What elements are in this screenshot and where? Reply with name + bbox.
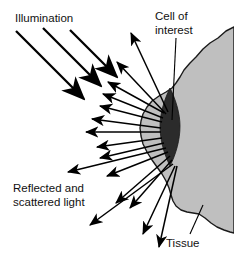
label-interest: interest — [155, 24, 194, 36]
illumination-arrow-2 — [43, 28, 101, 86]
label-reflected-and: Reflected and — [13, 182, 84, 194]
label-scattered-light: scattered light — [13, 196, 85, 208]
label-tissue: Tissue — [166, 237, 199, 249]
scatter-arrow-up-2 — [117, 62, 166, 114]
illumination-beams — [16, 28, 117, 99]
illumination-arrow-3 — [70, 30, 117, 77]
scatter-arrow-dl-6 — [130, 160, 172, 208]
label-illumination: Illumination — [15, 12, 73, 24]
tissue-region — [140, 27, 234, 233]
tissue-scattering-diagram: Illumination Cell of interest Reflected … — [0, 0, 234, 264]
label-cell-of: Cell of — [155, 10, 188, 22]
tissue-shape — [140, 27, 234, 233]
scatter-arrow-dl-7 — [90, 164, 173, 225]
illumination-arrow-1 — [16, 31, 84, 99]
diagram-root: Illumination Cell of interest Reflected … — [0, 0, 234, 264]
scatter-arrow-dl-5 — [116, 156, 170, 203]
scatter-arrow-up-1 — [131, 33, 168, 112]
